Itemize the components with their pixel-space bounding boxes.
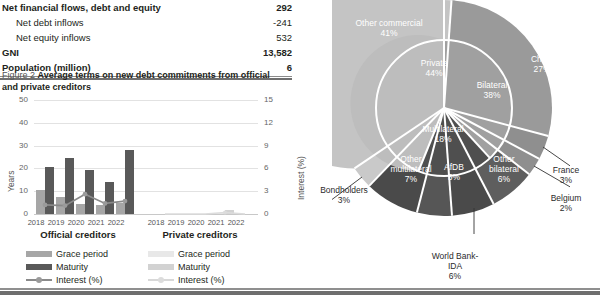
label-afdb: AfDB 5% <box>436 162 472 182</box>
y-tick-left: 10 <box>4 187 28 195</box>
figure-caption: Figure 2 Average terms on new debt commi… <box>2 70 282 93</box>
label-text: Private <box>421 58 447 68</box>
label-text: Bilateral <box>477 80 508 90</box>
y-tick-right: 3 <box>264 187 288 195</box>
swatch-maturity-icon <box>148 264 174 270</box>
label-private: Private 44% <box>408 58 460 78</box>
callout-france: France 3% <box>542 165 590 185</box>
bar-chart: Years Interest (%) <box>0 96 300 226</box>
row-value: 6 <box>287 61 292 74</box>
legend-item: Maturity <box>148 260 278 273</box>
callout-percent: 6% <box>420 271 490 281</box>
legend-item: Grace period <box>26 247 156 260</box>
legend-label: Grace period <box>56 249 108 259</box>
x-tick-label: 2022 <box>223 218 249 227</box>
plot-area <box>34 100 258 214</box>
label-percent: 44% <box>408 68 460 78</box>
y-tick-right: 9 <box>264 142 288 150</box>
row-label: Net equity inflows <box>2 31 90 44</box>
legend-item: Grace period <box>148 247 278 260</box>
label-percent: 18% <box>410 134 476 144</box>
table-row: Net equity inflows 532 <box>0 30 296 45</box>
y-tick-right: 0 <box>264 210 288 218</box>
label-percent: 38% <box>464 90 520 100</box>
legend-label: Interest (%) <box>178 275 225 285</box>
label-text: AfDB <box>444 162 464 172</box>
row-value: -241 <box>273 16 292 29</box>
figure-number: Figure 2 <box>2 70 35 80</box>
interest-line-private <box>154 100 258 214</box>
label-percent: 27% <box>518 64 566 74</box>
right-column: Other commercial 41% China 27% Private 4… <box>300 0 600 299</box>
financial-summary-table: Net financial flows, debt and equity 292… <box>0 0 296 80</box>
y-tick-left: 0 <box>4 210 28 218</box>
legend-group-official: Grace period Maturity Interest (%) <box>26 247 156 286</box>
label-text: China <box>531 54 553 64</box>
row-label: Net debt inflows <box>2 16 84 29</box>
swatch-interest-line-icon <box>148 276 174 283</box>
y-tick-right: 15 <box>264 96 288 104</box>
label-percent: 41% <box>352 28 426 38</box>
panel-official-creditors <box>34 100 138 214</box>
label-percent: 7% <box>386 174 436 184</box>
panel-private-creditors <box>154 100 258 214</box>
callout-text-2: IDA <box>420 261 490 271</box>
legend-item: Interest (%) <box>26 273 156 286</box>
callout-text: Bondholders <box>320 185 368 195</box>
row-label: Net financial flows, debt and equity <box>2 1 161 14</box>
y-tick-left: 50 <box>4 96 28 104</box>
label-china: China 27% <box>518 54 566 74</box>
y-tick-right: 6 <box>264 164 288 172</box>
swatch-interest-line-icon <box>26 276 52 283</box>
legend-label: Interest (%) <box>56 275 103 285</box>
y-tick-right: 12 <box>264 119 288 127</box>
table-row: Net financial flows, debt and equity 292 <box>0 0 296 15</box>
callout-percent: 3% <box>312 195 376 205</box>
legend-group-private: Grace period Maturity Interest (%) <box>148 247 278 286</box>
row-value: 13,582 <box>263 46 292 59</box>
page-bottom-rule <box>0 288 600 290</box>
panel-title-official: Official creditors <box>20 229 136 240</box>
label-text: Other multilateral <box>390 154 431 174</box>
swatch-grace-period-icon <box>148 251 174 257</box>
x-tick-label: 2022 <box>103 218 129 227</box>
label-multilateral: Multilateral 18% <box>410 124 476 144</box>
callout-percent: 3% <box>542 175 590 185</box>
label-bilateral: Bilateral 38% <box>464 80 520 100</box>
callout-text: France <box>553 165 579 175</box>
table-row: GNI 13,582 <box>0 45 296 60</box>
legend-label: Grace period <box>178 249 230 259</box>
interest-line-official <box>34 100 138 214</box>
table-row: Net debt inflows -241 <box>0 15 296 30</box>
figure-title: Average terms on new debt commitments fr… <box>2 70 270 92</box>
left-column: Net financial flows, debt and equity 292… <box>0 0 300 299</box>
swatch-maturity-icon <box>26 264 52 270</box>
page-bottom-bar <box>0 291 600 295</box>
row-value: 532 <box>276 31 292 44</box>
callout-world-bank-ida: World Bank- IDA 6% <box>420 251 490 281</box>
label-text: Multilateral <box>422 124 463 134</box>
legend-item: Maturity <box>26 260 156 273</box>
label-percent: 5% <box>436 172 472 182</box>
panel-title-private: Private creditors <box>142 229 258 240</box>
callout-text: World Bank- <box>432 251 479 261</box>
legend-item: Interest (%) <box>148 273 278 286</box>
page-root: Net financial flows, debt and equity 292… <box>0 0 600 299</box>
label-other-bilateral: Other bilateral 6% <box>480 154 528 184</box>
callout-text: Belgium <box>551 193 582 203</box>
label-percent: 6% <box>480 174 528 184</box>
row-label: GNI <box>2 46 19 59</box>
y-tick-left: 30 <box>4 142 28 150</box>
row-value: 292 <box>276 1 292 14</box>
legend-label: Maturity <box>56 262 88 272</box>
label-other-commercial: Other commercial 41% <box>352 18 426 38</box>
y-tick-left: 20 <box>4 164 28 172</box>
y-tick-left: 40 <box>4 119 28 127</box>
callout-percent: 2% <box>540 203 592 213</box>
swatch-grace-period-icon <box>26 251 52 257</box>
label-text: Other commercial <box>355 18 422 28</box>
label-text: Other bilateral <box>489 154 519 174</box>
callout-belgium: Belgium 2% <box>540 193 592 213</box>
label-other-multilateral: Other multilateral 7% <box>386 154 436 184</box>
callout-bondholders: Bondholders 3% <box>312 185 376 205</box>
